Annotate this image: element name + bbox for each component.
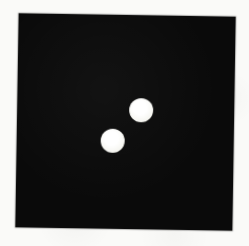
white-dot-upper-right: [129, 98, 153, 122]
black-card: [15, 13, 235, 230]
photograph: [0, 0, 249, 246]
white-dot-lower-left: [101, 129, 125, 153]
